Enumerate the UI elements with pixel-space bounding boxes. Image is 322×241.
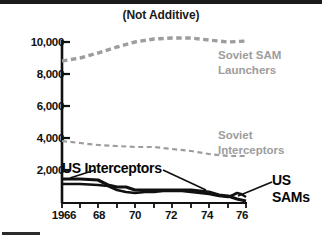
- plot-area: [0, 0, 322, 241]
- leader-line-us-interceptors-right: [163, 170, 206, 190]
- series-line-us-interceptors: [62, 179, 246, 201]
- bottom-rule-decoration: [2, 232, 40, 235]
- leader-line-us-sams: [238, 182, 272, 196]
- chart-figure: (Not Additive) 10,000 8,000 6,000 4,000 …: [0, 0, 322, 241]
- series-line-soviet-interceptors: [62, 141, 246, 156]
- series-line-soviet-sam-launchers: [62, 38, 246, 61]
- leader-line-us-interceptors-left: [70, 170, 95, 178]
